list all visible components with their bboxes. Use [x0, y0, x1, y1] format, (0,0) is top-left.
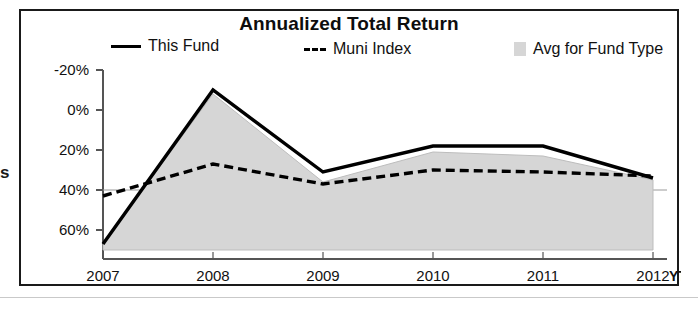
x-axis-tick-marks: [213, 252, 653, 259]
y-tick-label: 40%: [59, 181, 89, 198]
plot-area: 60%40%20%0%-20% 200720082009201020112012…: [21, 11, 681, 288]
chart-card: Annualized Total Return This Fund Muni I…: [19, 9, 679, 286]
clipped-edge-text: s: [0, 163, 9, 183]
x-axis-ytd-label: YTD: [669, 268, 681, 284]
bottom-divider: [0, 297, 698, 298]
x-tick-label: 2007: [86, 267, 119, 284]
y-tick-label: 0%: [67, 101, 89, 118]
y-tick-label: -20%: [54, 61, 89, 78]
x-tick-label: 2010: [416, 267, 449, 284]
x-tick-label: 2012: [636, 267, 669, 284]
y-axis-tick-marks: [96, 70, 103, 230]
y-tick-label: 20%: [59, 141, 89, 158]
x-tick-label: 2008: [196, 267, 229, 284]
y-axis-tick-labels: 60%40%20%0%-20%: [54, 61, 89, 238]
x-tick-label: 2011: [527, 267, 559, 284]
y-tick-label: 60%: [59, 221, 89, 238]
x-axis-tick-labels: 200720082009201020112012: [86, 267, 669, 284]
x-tick-label: 2009: [306, 267, 339, 284]
